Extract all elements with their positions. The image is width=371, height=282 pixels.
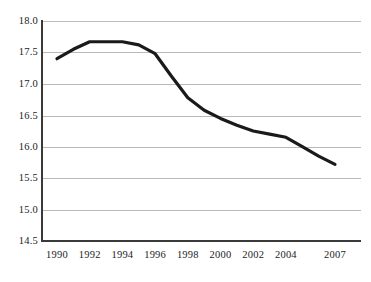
y-axis-tick-label: 15.0 xyxy=(2,204,38,215)
gridline-15-0 xyxy=(42,210,361,211)
y-axis-tick-label: 16.5 xyxy=(2,110,38,121)
y-axis-tick-label: 14.5 xyxy=(2,235,38,246)
gridline-16-5 xyxy=(42,116,361,117)
y-axis-tick-label: 17.0 xyxy=(2,78,38,89)
plot-area xyxy=(42,21,361,241)
y-axis-tick-label: 16.0 xyxy=(2,141,38,152)
chart-figure: 18.0 17.5 17.0 16.5 16.0 15.5 15.0 14.5 … xyxy=(0,0,371,282)
gridline-18-0 xyxy=(42,21,361,22)
x-axis-line xyxy=(41,240,361,242)
y-axis-line xyxy=(41,20,43,242)
gridline-16-0 xyxy=(42,147,361,148)
x-axis-tick-label: 2007 xyxy=(313,249,357,260)
y-axis-tick-label: 17.5 xyxy=(2,46,38,57)
y-axis-tick-label: 18.0 xyxy=(2,15,38,26)
y-axis-tick-label: 15.5 xyxy=(2,172,38,183)
gridline-17-0 xyxy=(42,84,361,85)
x-axis-tick-label: 2004 xyxy=(264,249,308,260)
gridline-15-5 xyxy=(42,178,361,179)
gridline-17-5 xyxy=(42,52,361,53)
